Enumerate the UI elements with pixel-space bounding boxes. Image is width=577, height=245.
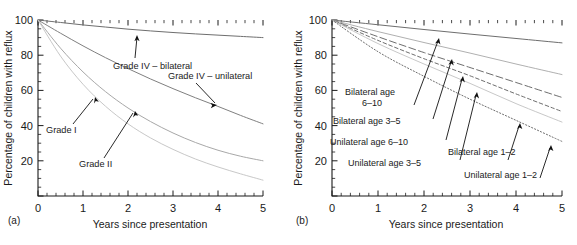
annotation-grade1-a: Grade I (46, 97, 99, 135)
annotation-label: Unilateral age 1–2 (464, 170, 537, 180)
x-tick-label: 1 (375, 202, 381, 214)
data-series-line (38, 20, 263, 180)
y-tick-label: 60 (315, 84, 327, 96)
x-tick-label: 2 (421, 202, 427, 214)
panel-tag-b: (b) (296, 215, 308, 226)
y-tick-labels-b: 20406080100 (309, 14, 327, 167)
arrowhead-icon (548, 145, 553, 151)
annotation-grade4-bilateral-a: Grade IV – bilateral (113, 35, 192, 71)
annotation-label: Bilateral age 1–2 (448, 147, 516, 157)
panel-tag-a: (a) (8, 215, 20, 226)
annotation-label: Grade I (46, 125, 77, 135)
x-tick-label: 2 (125, 202, 131, 214)
y-tick-labels-a: 20406080100 (15, 14, 33, 167)
x-tick-label: 1 (80, 202, 86, 214)
x-tick-label: 3 (170, 202, 176, 214)
data-series-line (332, 20, 562, 43)
y-axis-title-b: Percentage of children with reflux (292, 30, 304, 186)
y-axis-title-a: Percentage of children with reflux (2, 30, 14, 186)
annotation-grade4-unilateral-a: Grade IV – unilateral (168, 71, 252, 108)
arrowhead-icon (517, 123, 522, 129)
x-tick-labels-a: 012345 (35, 202, 266, 214)
annotation-label: Grade IV – bilateral (113, 61, 192, 71)
annotation-label-line1: Bilateral age (345, 87, 395, 97)
annotation-label: Unilateral age 3–5 (348, 158, 421, 168)
leader-line (73, 99, 93, 124)
panel-a: 20406080100 012345 Percentage of childre… (0, 0, 289, 245)
y-tick-label: 100 (15, 14, 33, 26)
x-tick-label: 0 (329, 202, 335, 214)
x-axis-title-b: Years since presentation (389, 218, 504, 230)
y-tick-label: 40 (21, 120, 33, 132)
arrowhead-icon (435, 38, 440, 45)
y-tick-label: 80 (315, 49, 327, 61)
figure-two-panel-reflux-chart: 20406080100 012345 Percentage of childre… (0, 0, 577, 245)
annotation-bilateral-1-2-b: Bilateral age 1–2 (448, 123, 522, 160)
panel-b: 20406080100 012345 Percentage of childre… (288, 0, 577, 245)
y-ticks-a (38, 20, 44, 196)
x-tick-label: 4 (215, 202, 221, 214)
x-tick-label: 5 (559, 202, 565, 214)
data-series-line (38, 20, 263, 38)
y-tick-label: 60 (21, 84, 33, 96)
leader-line (104, 113, 133, 158)
x-tick-labels-b: 012345 (329, 202, 565, 214)
annotation-label: Unilateral age 6–10 (330, 137, 408, 147)
y-tick-label: 40 (315, 120, 327, 132)
leader-line (433, 62, 451, 119)
annotation-label-line2: 6–10 (362, 98, 382, 108)
y-ticks-b (332, 20, 338, 196)
x-tick-label: 4 (513, 202, 519, 214)
annotation-label: Grade IV – unilateral (168, 71, 252, 81)
panel-b-plot: 20406080100 012345 Percentage of childre… (288, 0, 577, 245)
annotation-grade2-a: Grade II (79, 111, 138, 169)
y-tick-label: 20 (315, 155, 327, 167)
data-series-line (38, 20, 263, 161)
axis-lines-a (38, 20, 263, 196)
x-axis-title-a: Years since presentation (93, 218, 208, 230)
arrowhead-icon (474, 92, 479, 98)
y-tick-label: 100 (309, 14, 327, 26)
data-series-line (332, 20, 562, 75)
panel-a-curves (38, 20, 263, 180)
annotation-bilateral-6-10-b: Bilateral age 6–10 (345, 38, 440, 108)
y-tick-label: 20 (21, 155, 33, 167)
x-tick-label: 5 (260, 202, 266, 214)
leader-line (540, 148, 550, 178)
panel-a-plot: 20406080100 012345 Percentage of childre… (0, 0, 289, 245)
annotation-label: Bilateral age 3–5 (333, 116, 401, 126)
x-ticks-a (38, 20, 263, 196)
y-tick-label: 80 (21, 49, 33, 61)
annotation-label: Grade II (79, 159, 112, 169)
x-tick-label: 3 (467, 202, 473, 214)
x-tick-label: 0 (35, 202, 41, 214)
leader-line (196, 83, 215, 103)
